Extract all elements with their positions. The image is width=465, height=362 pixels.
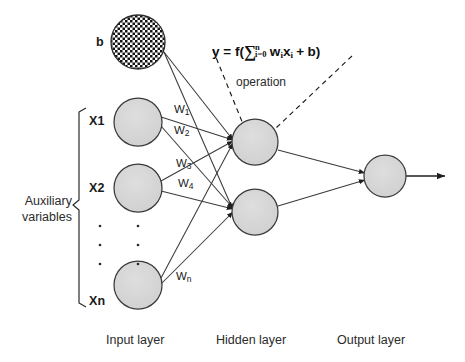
operation-label: operation bbox=[236, 76, 286, 90]
ellipsis-dots bbox=[99, 225, 140, 266]
layer-label-output: Output layer bbox=[337, 333, 405, 347]
auxiliary-variables-line2: variables bbox=[22, 210, 72, 224]
weight-w4-sub: 4 bbox=[189, 181, 194, 191]
formula-plus: + bbox=[296, 44, 304, 59]
hidden-node-1 bbox=[232, 119, 278, 165]
neural-network-diagram: b X1 X2 Xn Auxiliary variables W1 W2 W3 … bbox=[0, 0, 465, 362]
hidden-node-2 bbox=[232, 189, 278, 235]
sum-lower-limit: i=0 bbox=[255, 50, 266, 59]
input-node-label-xn: Xn bbox=[89, 294, 105, 308]
formula-rhs: ) bbox=[316, 44, 321, 59]
summation-sign: ∑ bbox=[244, 42, 256, 62]
input-node-x2 bbox=[114, 164, 162, 212]
weight-w2-base: W bbox=[174, 124, 185, 136]
weight-label-w4: W4 bbox=[178, 177, 194, 190]
weight-label-w1: W1 bbox=[174, 103, 190, 116]
layer-label-input: Input layer bbox=[106, 333, 164, 347]
formula-x-sub: i bbox=[290, 50, 293, 60]
formula-w-sub: i bbox=[280, 50, 283, 60]
weight-label-w3: W3 bbox=[176, 157, 192, 170]
auxiliary-variables-label: Auxiliary variables bbox=[6, 194, 72, 225]
auxiliary-variables-bracket bbox=[73, 108, 86, 307]
weight-w1-base: W bbox=[174, 103, 185, 115]
bias-node-label: b bbox=[96, 35, 104, 49]
input-node-x1 bbox=[114, 98, 162, 146]
layer-label-hidden: Hidden layer bbox=[216, 333, 286, 347]
weight-label-wn: Wn bbox=[176, 270, 192, 283]
input-node-label-x2: X2 bbox=[89, 181, 105, 195]
formula-lhs: y = f( bbox=[212, 44, 244, 59]
weight-w3-sub: 3 bbox=[187, 161, 192, 171]
edges-hidden-output bbox=[278, 150, 365, 206]
auxiliary-variables-line1: Auxiliary bbox=[25, 194, 72, 208]
edges-input-hidden bbox=[161, 117, 233, 284]
weight-wn-base: W bbox=[176, 270, 187, 282]
formula-w: w bbox=[270, 44, 281, 59]
bias-node bbox=[111, 15, 165, 69]
weight-w4-base: W bbox=[178, 177, 189, 189]
weight-label-w2: W2 bbox=[174, 124, 190, 137]
output-node bbox=[364, 155, 406, 197]
weight-w3-base: W bbox=[176, 157, 187, 169]
weight-wn-sub: n bbox=[187, 274, 192, 284]
input-node-label-x1: X1 bbox=[89, 114, 105, 128]
formula-b: b bbox=[308, 44, 316, 59]
input-node-xn bbox=[114, 261, 162, 309]
weight-w1-sub: 1 bbox=[185, 107, 190, 117]
weight-w2-sub: 2 bbox=[185, 128, 190, 138]
neuron-operation-formula: y = f(∑ni=0 wixi + b) bbox=[212, 42, 320, 62]
